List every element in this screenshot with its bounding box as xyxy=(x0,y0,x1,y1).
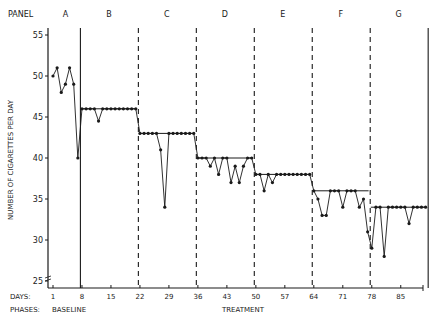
data-series xyxy=(51,66,427,258)
y-tick-label: 25 xyxy=(33,277,43,286)
data-point xyxy=(341,206,344,209)
data-point xyxy=(416,206,419,209)
data-point xyxy=(246,156,249,159)
phase-dividers xyxy=(80,28,428,288)
data-point xyxy=(374,206,377,209)
y-tick-label: 35 xyxy=(33,195,43,204)
data-point xyxy=(387,206,390,209)
data-point xyxy=(399,206,402,209)
data-point xyxy=(196,156,199,159)
phase-baseline-label: BASELINE xyxy=(52,306,86,314)
x-tick-label: 43 xyxy=(222,293,231,301)
data-point xyxy=(254,173,257,176)
data-point xyxy=(234,165,237,168)
data-point xyxy=(378,206,381,209)
data-point xyxy=(250,156,253,159)
data-point xyxy=(333,189,336,192)
data-point xyxy=(242,165,245,168)
data-point xyxy=(275,173,278,176)
x-tick-label: 29 xyxy=(164,293,173,301)
phases-label: PHASES: xyxy=(10,306,40,314)
data-point xyxy=(263,189,266,192)
data-point xyxy=(180,132,183,135)
y-tick-label: 30 xyxy=(33,236,43,245)
data-point xyxy=(329,189,332,192)
data-point xyxy=(163,206,166,209)
data-point xyxy=(221,156,224,159)
data-point xyxy=(205,156,208,159)
x-tick-label: 71 xyxy=(338,293,347,301)
days-label: DAYS: xyxy=(10,293,31,301)
data-point xyxy=(105,107,108,110)
data-point xyxy=(395,206,398,209)
data-point xyxy=(345,189,348,192)
y-axis-title: NUMBER OF CIGARETTES PER DAY xyxy=(7,99,15,220)
data-point xyxy=(287,173,290,176)
data-point xyxy=(403,206,406,209)
x-tick-label: 78 xyxy=(367,293,376,301)
data-point xyxy=(60,91,63,94)
data-point xyxy=(122,107,125,110)
data-point xyxy=(109,107,112,110)
data-point xyxy=(192,132,195,135)
panel-label: PANEL xyxy=(8,10,34,19)
data-point xyxy=(171,132,174,135)
data-point xyxy=(147,132,150,135)
data-point xyxy=(362,197,365,200)
data-point xyxy=(167,132,170,135)
data-point xyxy=(229,181,232,184)
data-point xyxy=(258,173,261,176)
data-point xyxy=(300,173,303,176)
data-point xyxy=(391,206,394,209)
data-point xyxy=(296,173,299,176)
panel-letter-a: A xyxy=(63,10,69,19)
phase-treatment-label: TREATMENT xyxy=(221,306,265,314)
data-point xyxy=(213,156,216,159)
data-point xyxy=(424,206,427,209)
panel-letter-c: C xyxy=(164,10,170,19)
data-point xyxy=(68,66,71,69)
x-tick-label: 1 xyxy=(51,293,55,301)
panel-letter-d: D xyxy=(222,10,228,19)
data-point xyxy=(238,181,241,184)
labels: PANELABCDEFGNUMBER OF CIGARETTES PER DAY… xyxy=(7,10,402,314)
data-point xyxy=(267,173,270,176)
data-point xyxy=(118,107,121,110)
x-tick-label: 8 xyxy=(80,293,84,301)
x-tick-label: 85 xyxy=(396,293,405,301)
data-point xyxy=(64,83,67,86)
data-point xyxy=(312,189,315,192)
x-tick-label: 64 xyxy=(309,293,318,301)
data-point xyxy=(151,132,154,135)
data-point xyxy=(420,206,423,209)
data-point xyxy=(349,189,352,192)
data-point xyxy=(271,181,274,184)
data-point xyxy=(85,107,88,110)
data-point xyxy=(138,132,141,135)
data-point xyxy=(354,189,357,192)
data-point xyxy=(337,189,340,192)
data-point xyxy=(412,206,415,209)
data-point xyxy=(279,173,282,176)
x-tick-label: 22 xyxy=(135,293,144,301)
data-point xyxy=(200,156,203,159)
data-point xyxy=(316,197,319,200)
y-tick-label: 55 xyxy=(33,31,43,40)
data-point xyxy=(80,107,83,110)
x-tick-label: 50 xyxy=(251,293,260,301)
data-point xyxy=(188,132,191,135)
data-point xyxy=(97,120,100,123)
panel-letter-e: E xyxy=(280,10,285,19)
data-point xyxy=(370,247,373,250)
data-point xyxy=(304,173,307,176)
data-point xyxy=(209,165,212,168)
panel-letter-g: G xyxy=(396,10,402,19)
x-tick-label: 15 xyxy=(106,293,115,301)
cigarettes-chart: 25303540455055181522293643505764717885 P… xyxy=(0,0,444,327)
data-point xyxy=(225,156,228,159)
data-point xyxy=(51,74,54,77)
x-tick-label: 36 xyxy=(193,293,202,301)
y-tick-label: 45 xyxy=(33,113,43,122)
y-tick-label: 50 xyxy=(33,72,43,81)
data-point xyxy=(283,173,286,176)
